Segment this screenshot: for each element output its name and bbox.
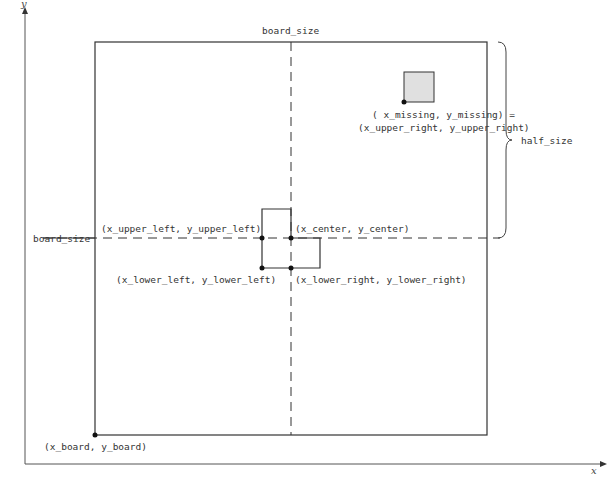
lower-left-point bbox=[260, 266, 265, 271]
board-origin-point bbox=[93, 433, 98, 438]
half-size-brace-icon bbox=[498, 42, 512, 238]
missing-label-line2: (x_upper_right, y_upper_right) bbox=[358, 122, 530, 133]
x-axis-arrow-icon bbox=[600, 461, 607, 467]
missing-point bbox=[402, 100, 407, 105]
upper-left-label: (x_upper_left, y_upper_left) bbox=[101, 223, 261, 234]
board-origin-label: (x_board, y_board) bbox=[44, 441, 147, 452]
missing-square bbox=[404, 72, 434, 102]
y-axis-label: y bbox=[20, 0, 27, 9]
left-board-size-label: board_size bbox=[33, 233, 90, 244]
tromino-upper-left bbox=[262, 209, 291, 238]
center-point bbox=[289, 236, 294, 241]
half-size-label: half_size bbox=[521, 135, 573, 146]
center-label: (x_center, y_center) bbox=[295, 223, 409, 234]
lower-left-label: (x_lower_left, y_lower_left) bbox=[116, 274, 276, 285]
tromino-diagram: x y board_size board_size half_size ( x_… bbox=[0, 0, 609, 479]
x-axis-label: x bbox=[591, 465, 597, 476]
lower-right-point bbox=[289, 266, 294, 271]
upper-left-point bbox=[260, 236, 265, 241]
lower-right-label: (x_lower_right, y_lower_right) bbox=[295, 274, 467, 285]
top-board-size-label: board_size bbox=[262, 25, 319, 36]
missing-label-line1: ( x_missing, y_missing) = bbox=[372, 109, 515, 120]
